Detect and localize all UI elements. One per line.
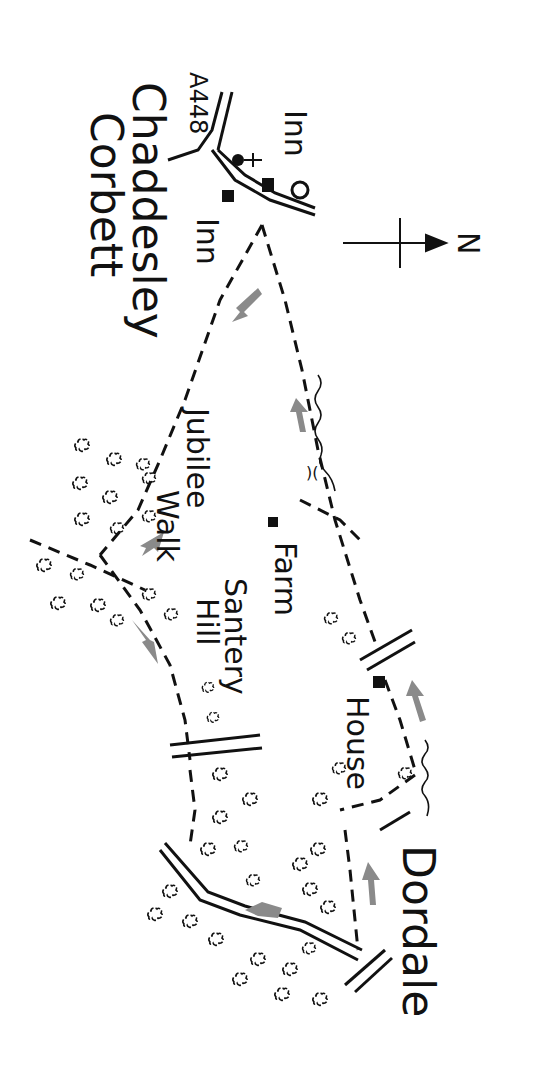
label-house: House: [342, 696, 372, 790]
map-drawing: )(: [0, 0, 533, 1078]
inn-sign-icon: [292, 182, 308, 198]
church-icon: [232, 153, 262, 167]
label-inn-bottom: Inn: [192, 218, 222, 265]
label-village-chaddesley: Chaddesley: [126, 82, 170, 339]
walk-map: )(: [0, 0, 533, 1078]
compass-north-label: N: [453, 232, 483, 254]
label-hill: Hill: [192, 598, 222, 646]
house-building-icon: [373, 676, 385, 688]
bridge-icon: )(: [306, 463, 318, 482]
inn-building-icon: [262, 178, 274, 192]
farm-building-icon: [268, 517, 278, 527]
label-village-corbett: Corbett: [84, 112, 128, 277]
label-dordale: Dordale: [396, 845, 440, 1017]
label-farm: Farm: [270, 542, 300, 616]
label-inn-top: Inn: [280, 110, 310, 157]
label-jubilee: Jubilee: [182, 408, 212, 509]
inn-building-icon: [222, 190, 234, 202]
label-road-a448: A448: [186, 72, 210, 134]
north-arrow-icon: [343, 218, 446, 268]
label-walk: Walk: [152, 490, 182, 562]
